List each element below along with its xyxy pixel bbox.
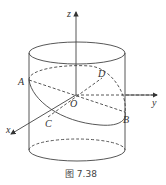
y-axis-label: y (151, 97, 157, 108)
point-A-label: A (17, 76, 25, 87)
z-axis-label: z (66, 8, 71, 19)
x-axis (11, 95, 76, 134)
point-D-label: D (97, 68, 106, 79)
x-axis-label: x (5, 124, 11, 135)
point-C-label: C (45, 118, 52, 129)
figure-caption: 图 7.38 (65, 169, 97, 179)
cylinder-bottom-front (29, 150, 125, 161)
cylinder-section-diagram: z y x O A B C D 图 7.38 (0, 0, 166, 185)
cylinder-bottom-back (29, 139, 125, 150)
cylinder-top-ellipse (29, 42, 125, 64)
point-B-label: B (123, 114, 129, 125)
origin-label: O (70, 98, 77, 109)
